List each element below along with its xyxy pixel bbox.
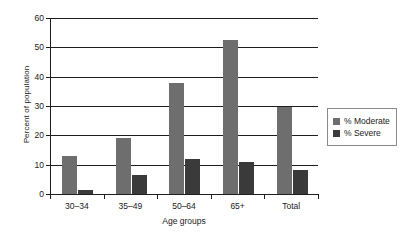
bar-severe bbox=[185, 159, 200, 194]
x-tick-label: 35–49 bbox=[119, 201, 143, 211]
y-tick-mark bbox=[46, 165, 50, 166]
x-tick-mark bbox=[318, 195, 319, 199]
y-tick-label: 40 bbox=[35, 72, 44, 82]
x-tick-label: 65+ bbox=[230, 201, 244, 211]
x-tick-label: 30–34 bbox=[65, 201, 89, 211]
x-tick-label: Total bbox=[282, 201, 300, 211]
y-tick-label: 10 bbox=[35, 160, 44, 170]
y-tick-label: 30 bbox=[35, 101, 44, 111]
legend-swatch-icon bbox=[333, 130, 340, 137]
bar-moderate bbox=[62, 156, 77, 194]
bar-moderate bbox=[223, 40, 238, 194]
legend-item: % Severe bbox=[333, 128, 390, 138]
y-tick-mark bbox=[46, 77, 50, 78]
chart-legend: % Moderate% Severe bbox=[327, 108, 397, 146]
bar-severe bbox=[239, 162, 254, 194]
y-tick-mark bbox=[46, 106, 50, 107]
legend-swatch-icon bbox=[333, 118, 340, 125]
legend-label: % Severe bbox=[344, 128, 381, 138]
y-axis-title: Percent of population bbox=[22, 25, 31, 185]
bar-severe bbox=[132, 175, 147, 194]
plot-area: 0102030405060 bbox=[50, 18, 318, 194]
bar-group bbox=[212, 18, 266, 194]
bar-chart: Percent of population 0102030405060 30–3… bbox=[0, 0, 418, 242]
bar-group bbox=[51, 18, 105, 194]
y-tick-mark bbox=[46, 18, 50, 19]
x-tick-label: 50–64 bbox=[172, 201, 196, 211]
bars-layer bbox=[51, 18, 318, 194]
y-tick-label: 0 bbox=[39, 189, 44, 199]
x-tick-mark bbox=[264, 195, 265, 199]
bar-group bbox=[265, 18, 319, 194]
bar-moderate bbox=[116, 138, 131, 194]
x-tick-mark bbox=[211, 195, 212, 199]
bar-severe bbox=[293, 170, 308, 194]
legend-item: % Moderate bbox=[333, 116, 390, 126]
bar-group bbox=[105, 18, 159, 194]
legend-label: % Moderate bbox=[344, 116, 390, 126]
x-axis-title: Age groups bbox=[50, 216, 318, 226]
bar-group bbox=[158, 18, 212, 194]
y-tick-mark bbox=[46, 47, 50, 48]
x-tick-mark bbox=[157, 195, 158, 199]
bar-moderate bbox=[277, 107, 292, 194]
x-tick-mark bbox=[50, 195, 51, 199]
y-tick-label: 60 bbox=[35, 13, 44, 23]
y-tick-mark bbox=[46, 135, 50, 136]
y-tick-label: 50 bbox=[35, 42, 44, 52]
x-tick-mark bbox=[104, 195, 105, 199]
x-axis-line bbox=[50, 194, 319, 195]
y-tick-label: 20 bbox=[35, 130, 44, 140]
bar-moderate bbox=[169, 83, 184, 194]
